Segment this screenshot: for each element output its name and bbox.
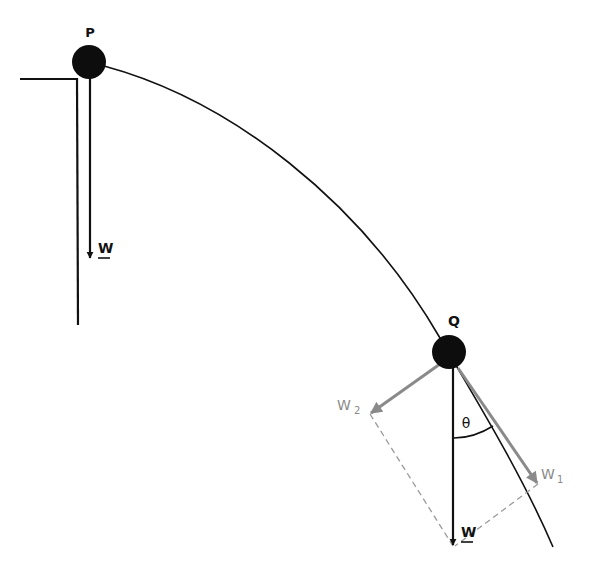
svg-text:W: W [98, 240, 113, 256]
label-w2: W 2 [337, 397, 360, 416]
label-w-at-p: W [98, 240, 113, 258]
label-theta: θ [462, 415, 471, 431]
svg-text:W: W [461, 524, 476, 540]
diagram-canvas: P W Q W 2 W 1 θ W [0, 0, 596, 569]
label-w1: W 1 [541, 466, 563, 485]
ball-p [72, 45, 106, 79]
svg-text:W: W [541, 466, 555, 482]
label-w-at-q: W [461, 524, 476, 542]
svg-text:2: 2 [354, 405, 360, 416]
theta-angle-arc [454, 426, 493, 438]
trajectory-curve [104, 66, 553, 547]
label-p: P [85, 25, 95, 40]
svg-text:W: W [337, 397, 351, 413]
ledge [20, 78, 78, 325]
component-vector-w2 [371, 364, 440, 413]
label-q: Q [448, 313, 460, 329]
svg-text:1: 1 [557, 474, 563, 485]
ball-q [432, 335, 466, 369]
